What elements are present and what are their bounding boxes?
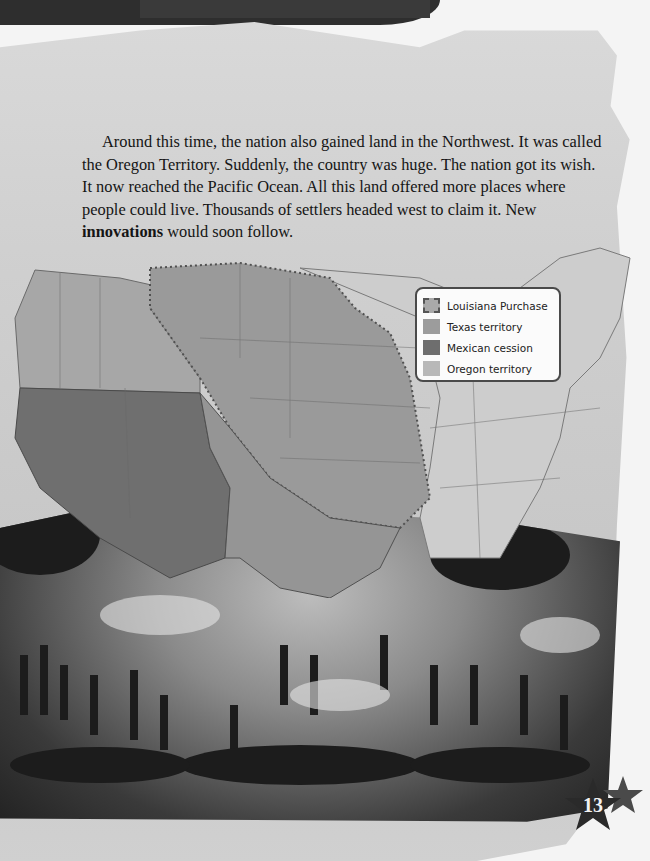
legend-item-oregon-territory: Oregon territory [423,358,553,379]
legend-label: Texas territory [447,321,522,333]
page-number: 13 [565,794,621,817]
swatch-icon [423,340,440,355]
legend-item-mexican-cession: Mexican cession [423,337,553,358]
legend-label: Oregon territory [447,363,532,375]
map-legend: Louisiana Purchase Texas territory Mexic… [415,287,561,382]
swatch-icon [423,319,440,334]
legend-label: Mexican cession [447,342,533,354]
legend-label: Louisiana Purchase [447,300,548,312]
paragraph-text-start: Around this time, the nation also gained… [82,132,601,219]
book-page: Around this time, the nation also gained… [0,0,650,861]
legend-item-louisiana-purchase: Louisiana Purchase [423,295,553,316]
swatch-icon [423,361,440,376]
dashed-swatch-icon [423,298,440,313]
top-decorative-band-inner [140,0,430,18]
body-paragraph: Around this time, the nation also gained… [82,131,607,244]
mexican-cession [15,388,230,578]
legend-item-texas-territory: Texas territory [423,316,553,337]
page-number-badge: 13 [565,772,645,852]
